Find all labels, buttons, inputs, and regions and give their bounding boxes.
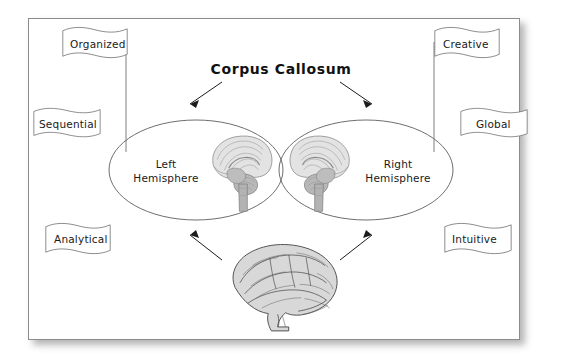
right-hemisphere-label-line1: Right <box>384 158 413 170</box>
right-hemisphere-label-line2: Hemisphere <box>365 172 430 184</box>
brain-lateral-view-icon <box>233 245 337 331</box>
diagram-graphics: Organized Sequential Analytical Creative… <box>0 0 563 363</box>
banner-label-creative: Creative <box>443 38 489 50</box>
diagram-canvas: Organized Sequential Analytical Creative… <box>0 0 563 363</box>
banner-sequential[interactable]: Sequential <box>34 108 100 136</box>
banner-label-organized: Organized <box>70 38 126 50</box>
brain-sagittal-section-icon-right <box>290 136 349 211</box>
arrow-title-to-left-hemisphere <box>190 82 222 108</box>
arrow-brain-to-right-hemisphere <box>340 230 372 260</box>
left-hemisphere-label-line2: Hemisphere <box>133 172 198 184</box>
arrow-brain-to-left-hemisphere <box>190 230 222 260</box>
arrow-title-to-right-hemisphere <box>340 82 372 108</box>
banner-label-intuitive: Intuitive <box>452 233 497 245</box>
banner-label-analytical: Analytical <box>54 233 108 245</box>
banner-analytical[interactable]: Analytical <box>46 223 110 253</box>
banner-intuitive[interactable]: Intuitive <box>445 223 511 253</box>
brain-sagittal-section-icon-left <box>213 136 272 211</box>
banner-global[interactable]: Global <box>461 108 527 136</box>
page-title: Corpus Callosum <box>211 61 352 77</box>
banner-label-global: Global <box>476 118 511 130</box>
left-hemisphere-label-line1: Left <box>156 158 177 170</box>
banner-label-sequential: Sequential <box>39 118 97 130</box>
